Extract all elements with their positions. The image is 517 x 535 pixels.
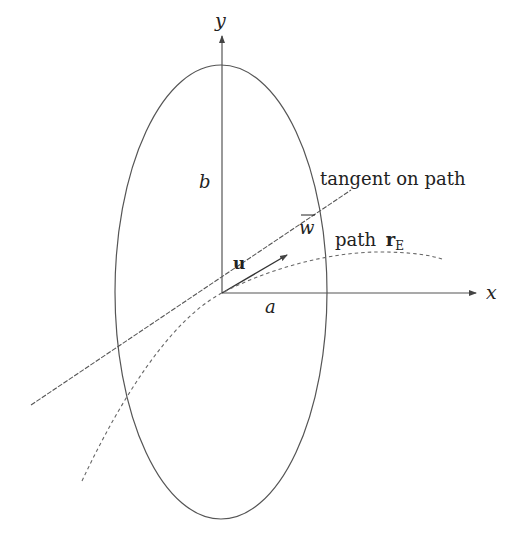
semi-axis-b-label: b <box>199 171 211 192</box>
ellipse <box>115 65 327 519</box>
path-curve <box>82 252 442 481</box>
w-bar-label: w <box>299 217 315 238</box>
ellipse-tangent-diagram: y x b a u w tangent on path path rE <box>0 0 517 535</box>
semi-axis-a-label: a <box>265 296 276 317</box>
path-label: path rE <box>335 229 404 253</box>
y-axis-label: y <box>214 9 226 31</box>
vector-u <box>222 255 287 293</box>
x-axis-label: x <box>486 281 497 303</box>
vector-u-label: u <box>233 253 245 273</box>
tangent-label: tangent on path <box>320 168 466 189</box>
